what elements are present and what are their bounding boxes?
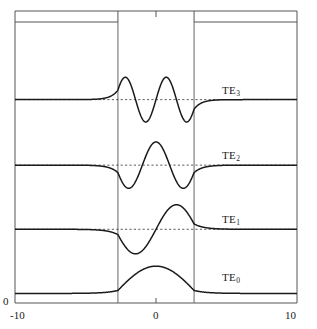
mode-label-te2: TE2 <box>222 149 240 161</box>
mode-label-te0-text: TE <box>222 271 236 283</box>
te-mode-profile-figure: TE3 TE2 TE1 TE0 0 -10 0 10 <box>0 0 317 329</box>
mode-curve-te3 <box>15 77 297 122</box>
mode-label-te1: TE1 <box>222 213 240 225</box>
mode-curve-te1 <box>15 205 297 254</box>
x-axis-tick-label-left: -10 <box>10 309 25 321</box>
plot-canvas <box>0 0 317 329</box>
mode-label-te1-text: TE <box>222 213 236 225</box>
mode-label-te3-order: 3 <box>236 89 240 98</box>
mode-curves-group <box>15 77 297 293</box>
mode-label-te3: TE3 <box>222 84 240 96</box>
mode-label-te2-text: TE <box>222 149 236 161</box>
mode-label-te0-order: 0 <box>236 276 240 285</box>
y-axis-origin-label: 0 <box>3 295 9 307</box>
mode-label-te2-order: 2 <box>236 154 240 163</box>
mode-label-te1-order: 1 <box>236 218 240 227</box>
mode-curve-te0 <box>15 266 297 293</box>
x-axis-tick-label-center: 0 <box>153 309 159 321</box>
x-axis-tick-label-right: 10 <box>285 309 296 321</box>
plot-frame-group <box>15 22 297 303</box>
mode-label-te3-text: TE <box>222 84 236 96</box>
mode-label-te0: TE0 <box>222 271 240 283</box>
index-profile-group <box>15 11 297 22</box>
